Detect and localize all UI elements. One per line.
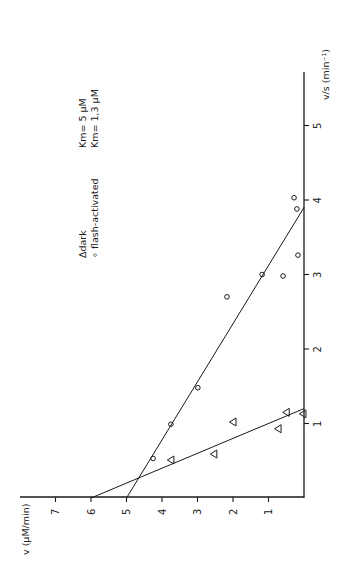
- y-tick-label: 4: [157, 509, 168, 515]
- fit-lines: [91, 207, 304, 498]
- x-tick-label: 5: [312, 123, 323, 129]
- y-axis-title: v (μM/min): [20, 504, 31, 555]
- circle-marker: [295, 207, 300, 212]
- km-flash-annotation: Km= 1,3 μM: [89, 89, 100, 148]
- triangle-marker: [275, 425, 282, 433]
- circle-marker: [196, 385, 201, 390]
- x-tick-label: 2: [312, 346, 323, 352]
- eadie-hofstee-chart: 12345 1234567 v/s (min⁻¹) v (μM/min) Δda…: [0, 0, 340, 562]
- y-tick-label: 6: [86, 509, 97, 515]
- y-tick-label: 7: [50, 509, 61, 515]
- circle-marker: [151, 456, 156, 461]
- circle-marker: [225, 295, 230, 300]
- triangle-marker: [299, 410, 306, 418]
- circle-marker: [281, 274, 286, 279]
- y-tick-label: 3: [192, 509, 203, 515]
- legend: Δdark ∘ flash-activated Km= 5 μM Km= 1,3…: [77, 89, 100, 258]
- x-axis-title: v/s (min⁻¹): [320, 49, 331, 100]
- x-tick-label: 1: [312, 421, 323, 427]
- data-markers: [151, 195, 306, 464]
- circle-marker: [296, 253, 301, 258]
- triangle-marker: [167, 456, 174, 464]
- circle-marker: [292, 195, 297, 200]
- legend-flash-activated: ∘ flash-activated: [89, 178, 100, 258]
- x-tick-label: 3: [312, 272, 323, 278]
- y-tick-label: 5: [121, 509, 132, 515]
- fit-line-flash-activated: [127, 207, 305, 498]
- y-tick-label: 2: [228, 509, 239, 515]
- triangle-marker: [230, 418, 237, 426]
- x-axis-ticks: 12345: [304, 123, 323, 427]
- y-tick-label: 1: [263, 509, 274, 515]
- y-axis-ticks: 1234567: [50, 497, 274, 515]
- triangle-marker: [210, 450, 217, 458]
- x-tick-label: 4: [312, 197, 323, 203]
- km-dark-annotation: Km= 5 μM: [77, 98, 88, 148]
- chart-canvas: 12345 1234567 v/s (min⁻¹) v (μM/min) Δda…: [0, 0, 340, 562]
- legend-dark: Δdark: [77, 230, 88, 258]
- fit-line-dark: [91, 409, 304, 498]
